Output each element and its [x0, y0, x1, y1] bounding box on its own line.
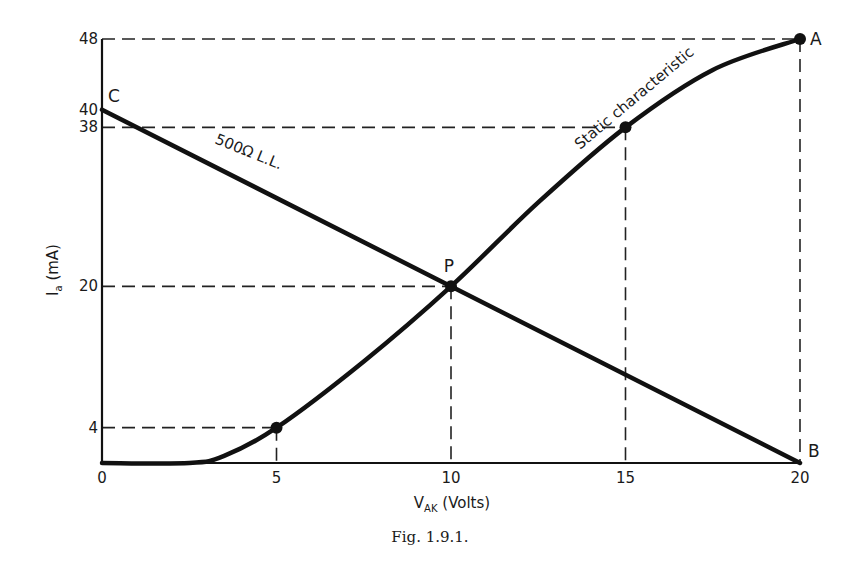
point-label-c: C	[108, 86, 120, 106]
x-axis-title-sub: AK	[424, 503, 438, 514]
y-tick-label: 4	[88, 419, 98, 437]
x-tick-label: 5	[272, 469, 282, 487]
x-tick-label: 20	[790, 469, 809, 487]
x-axis-title-unit: (Volts)	[438, 494, 491, 512]
chart: 05101520420384048 PACB 500Ω L.L. Static …	[0, 0, 860, 564]
point-label-p: P	[444, 256, 454, 276]
static-characteristic-label: Static characteristic	[571, 43, 697, 153]
guide-lines	[102, 39, 800, 463]
static-characteristic-curve	[102, 39, 800, 464]
y-axis-title-unit: (mA)	[44, 244, 62, 285]
data-point	[445, 280, 457, 292]
data-point	[271, 422, 283, 434]
figure-caption: Fig. 1.9.1.	[391, 528, 468, 546]
x-tick-label: 0	[97, 469, 107, 487]
x-tick-label: 15	[616, 469, 635, 487]
load-line-label: 500Ω L.L.	[213, 130, 286, 173]
x-axis-title: VAK (Volts)	[414, 494, 490, 514]
axes	[102, 39, 800, 463]
series	[102, 39, 800, 464]
point-label-b: B	[808, 441, 820, 461]
x-tick-label: 10	[441, 469, 460, 487]
data-point	[794, 33, 806, 45]
svg-text:Ia (mA): Ia (mA)	[44, 244, 64, 296]
y-tick-label: 48	[79, 30, 98, 48]
point-label-a: A	[810, 29, 822, 49]
y-axis-title: Ia (mA)	[44, 244, 64, 296]
y-tick-label: 38	[79, 118, 98, 136]
data-point	[620, 121, 632, 133]
point-labels: PACB	[108, 29, 822, 461]
y-tick-label: 20	[79, 277, 98, 295]
y-tick-label: 40	[79, 101, 98, 119]
